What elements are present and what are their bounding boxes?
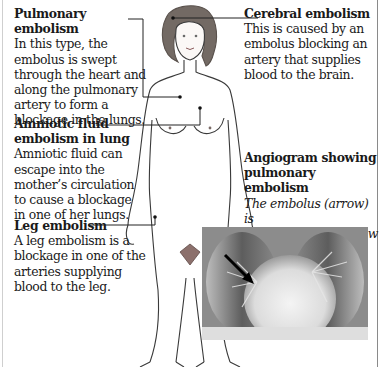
amniotic-title: embolism in lung [14,131,154,146]
cerebral-line: artery that supplies [244,52,379,67]
pulmonary-line: through the heart and [14,67,154,82]
angiogram-title: pulmonary embolism [244,165,379,195]
leg-line: blockage in one of the [14,248,154,263]
pubic-region [180,244,200,265]
pulmonary-line: embolus is swept [14,52,154,67]
pulmonary-line: In this type, the [14,36,154,51]
cerebral-line: This is caused by an [244,21,379,36]
angiogram-image [202,227,368,340]
pulmonary-line: artery to form a [14,97,154,112]
leg-title: Leg embolism [14,218,154,233]
amniotic-line: Amniotic fluid can [14,146,154,161]
angiogram-line: The embolus (arrow) is [244,196,379,226]
amniotic-title: Amniotic fluid [14,116,154,131]
leg-line: blood to the leg. [14,279,154,294]
annotation-pulmonary-embolism: Pulmonary embolism In this type, the emb… [14,6,154,128]
pulmonary-title: Pulmonary embolism [14,6,154,36]
xray-illustration [202,227,368,340]
pulmonary-line: along the pulmonary [14,82,154,97]
annotation-cerebral-embolism: Cerebral embolism This is caused by an e… [244,6,379,82]
cerebral-line: embolus blocking an [244,36,379,51]
leg-line: arteries supplying [14,264,154,279]
leg-line: A leg embolism is a [14,233,154,248]
annotation-leg-embolism: Leg embolism A leg embolism is a blockag… [14,218,154,294]
cerebral-line: blood to the brain. [244,67,379,82]
angiogram-title: Angiogram showing [244,150,379,165]
amniotic-line: to cause a blockage [14,192,154,207]
cerebral-title: Cerebral embolism [244,6,379,21]
amniotic-line: escape into the [14,162,154,177]
amniotic-line: mother’s circulation [14,177,154,192]
annotation-amniotic-fluid-embolism: Amniotic fluid embolism in lung Amniotic… [14,116,154,222]
